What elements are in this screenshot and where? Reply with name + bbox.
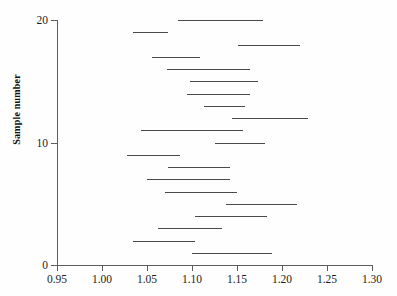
x-tick-label: 1.25 [317, 273, 337, 285]
y-tick-mark [51, 20, 57, 21]
x-tick-label: 1.10 [182, 273, 202, 285]
interval-segment [165, 192, 237, 193]
x-tick-mark [282, 266, 283, 271]
interval-segment [158, 228, 222, 229]
interval-segment [215, 143, 265, 144]
x-tick-mark [237, 266, 238, 271]
interval-segment [127, 155, 180, 156]
x-tick-label: 1.30 [362, 273, 382, 285]
x-tick-mark [57, 266, 58, 271]
x-tick-mark [192, 266, 193, 271]
interval-segment [152, 57, 200, 58]
interval-segment [204, 106, 245, 107]
y-tick-label: 20 [8, 14, 48, 26]
interval-segment [190, 81, 258, 82]
x-tick-mark [147, 266, 148, 271]
interval-segment [133, 32, 168, 33]
interval-segment [147, 179, 230, 180]
interval-segment [168, 167, 230, 168]
x-tick-mark [372, 266, 373, 271]
y-axis-title: Sample number [11, 50, 22, 170]
interval-segment [192, 253, 272, 254]
x-tick-label: 1.15 [227, 273, 247, 285]
interval-plot: 0.951.001.051.101.151.201.251.30 01020 S… [0, 0, 397, 296]
interval-segment [178, 20, 264, 21]
plot-area: 0.951.001.051.101.151.201.251.30 01020 S… [0, 0, 397, 296]
x-tick-label: 1.20 [272, 273, 292, 285]
y-tick-mark [51, 265, 57, 266]
x-tick-label: 1.00 [92, 273, 112, 285]
interval-segment [238, 45, 300, 46]
interval-segment [232, 118, 309, 119]
y-axis-line [57, 20, 58, 266]
y-tick-mark [51, 143, 57, 144]
interval-segment [141, 130, 244, 131]
interval-segment [226, 204, 297, 205]
x-axis-line [57, 265, 373, 266]
x-tick-label: 0.95 [47, 273, 67, 285]
interval-segment [187, 94, 250, 95]
interval-segment [167, 69, 250, 70]
interval-segment [195, 216, 267, 217]
x-tick-mark [327, 266, 328, 271]
y-tick-label: 0 [8, 259, 48, 271]
x-tick-mark [102, 266, 103, 271]
x-tick-label: 1.05 [137, 273, 157, 285]
interval-segment [133, 241, 195, 242]
